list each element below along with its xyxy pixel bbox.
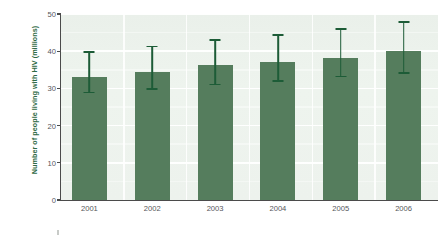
y-axis-tick-label: 40 <box>48 47 56 56</box>
y-axis-tick-label: 10 <box>48 158 56 167</box>
vertical-gridline <box>374 14 376 200</box>
y-axis-title: Number of people living with HIV (millio… <box>30 0 39 200</box>
error-bar-cap-upper <box>272 34 283 36</box>
y-axis-tick <box>57 88 61 89</box>
error-bar-whisker <box>89 52 91 93</box>
x-axis-tick-label: 2003 <box>207 204 224 213</box>
y-axis-tick <box>57 125 61 126</box>
chart-figure: Number of people living with HIV (millio… <box>0 0 447 237</box>
error-bar-cap-lower <box>398 72 409 74</box>
error-bar-cap-upper <box>84 51 95 53</box>
error-bar-cap-lower <box>210 84 221 86</box>
error-bar-cap-upper <box>335 28 346 30</box>
plot-area: 01020304050 200120022003200420052006 <box>60 14 438 201</box>
bar <box>198 65 233 200</box>
vertical-gridline <box>312 14 314 200</box>
error-bar-cap-upper <box>210 39 221 41</box>
vertical-gridline <box>249 14 251 200</box>
bar <box>135 72 170 200</box>
error-bar-cap-lower <box>147 88 158 90</box>
scan-artifact-mark <box>57 230 59 235</box>
y-axis-tick <box>57 13 61 14</box>
x-axis-tick-label: 2004 <box>269 204 286 213</box>
y-axis-tick <box>57 162 61 163</box>
x-axis-tick-label: 2001 <box>81 204 98 213</box>
vertical-gridline <box>186 14 188 200</box>
y-axis-tick-label: 30 <box>48 84 56 93</box>
error-bar-cap-lower <box>335 76 346 78</box>
error-bar-whisker <box>403 22 405 73</box>
y-axis-tick <box>57 199 61 200</box>
x-axis-tick-label: 2005 <box>332 204 349 213</box>
error-bar-cap-upper <box>147 46 158 48</box>
y-axis-tick-label: 20 <box>48 121 56 130</box>
error-bar-cap-lower <box>84 92 95 94</box>
y-axis-tick <box>57 51 61 52</box>
bar <box>260 62 295 200</box>
error-bar-cap-lower <box>272 80 283 82</box>
bar <box>72 77 107 201</box>
y-axis-tick-label: 0 <box>52 196 56 205</box>
y-axis-tick-label: 50 <box>48 10 56 19</box>
bar <box>323 58 358 200</box>
x-axis-tick-label: 2006 <box>395 204 412 213</box>
error-bar-whisker <box>151 46 153 89</box>
error-bar-cap-upper <box>398 21 409 23</box>
error-bar-whisker <box>214 40 216 85</box>
x-axis-tick-label: 2002 <box>144 204 161 213</box>
vertical-gridline <box>123 14 125 200</box>
error-bar-whisker <box>277 35 279 81</box>
error-bar-whisker <box>340 29 342 77</box>
